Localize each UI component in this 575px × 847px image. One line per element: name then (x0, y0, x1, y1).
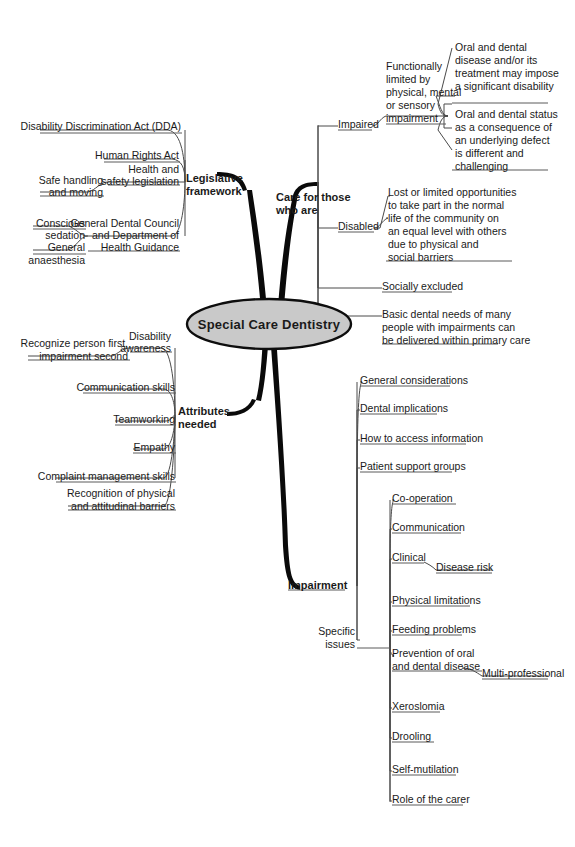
node-label: Human Rights Act (95, 149, 179, 161)
node-label: General (48, 241, 85, 253)
node-label: Communication skills (76, 381, 175, 393)
branch-impairment[interactable]: Impairment (288, 579, 348, 591)
node-safe-handling-and-moving[interactable]: Safe handling and moving (39, 174, 103, 198)
node-label: Prevention of oral (392, 647, 474, 659)
node-label: safety legislation (101, 175, 179, 187)
trunk-attributes-arm (227, 399, 256, 416)
node-socially-excluded[interactable]: Socially excluded (382, 280, 463, 292)
node-label: General considerations (360, 374, 468, 386)
node-label: Recognition of physical (67, 487, 175, 499)
node-label: Disease risk (436, 561, 494, 573)
node-label: challenging (455, 160, 508, 172)
node-lost-limited-opportunities[interactable]: Lost or limited opportunities to take pa… (388, 186, 516, 263)
node-functionally-limited[interactable]: Functionally limited by physical, mental… (386, 60, 461, 124)
node-drooling[interactable]: Drooling (392, 730, 431, 742)
node-role-of-the-carer[interactable]: Role of the carer (392, 793, 470, 805)
node-impaired[interactable]: Impaired (338, 118, 379, 130)
conn-care-impaired (318, 126, 338, 182)
node-label: Disabled (338, 220, 379, 232)
node-oral-dental-disease-disability[interactable]: Oral and dental disease and/or its treat… (455, 41, 559, 92)
node-label: Impaired (338, 118, 379, 130)
node-how-to-access-information[interactable]: How to access information (360, 432, 483, 444)
node-feeding-problems[interactable]: Feeding problems (392, 623, 476, 635)
trunk-impairment (270, 333, 300, 590)
node-complaint-management-skills[interactable]: Complaint management skills (38, 470, 175, 482)
node-label: physical, mental (386, 86, 461, 98)
node-label: Multi-professional (482, 667, 564, 679)
conn-func-b1 (444, 104, 452, 116)
node-self-mutilation[interactable]: Self-mutilation (392, 763, 459, 775)
node-label: Self-mutilation (392, 763, 459, 775)
node-label: treatment may impose (455, 67, 559, 79)
node-label: Physical limitations (392, 594, 481, 606)
node-communication-skills[interactable]: Communication skills (76, 381, 175, 393)
node-label: Specific (318, 625, 355, 637)
node-dental-implications[interactable]: Dental implications (360, 402, 448, 414)
root-label: Special Care Dentistry (198, 317, 341, 332)
node-label: a significant disability (455, 80, 554, 92)
node-label: social barriers (388, 251, 453, 263)
node-label: is different and (455, 147, 524, 159)
node-empathy[interactable]: Empathy (134, 441, 176, 453)
node-general-considerations[interactable]: General considerations (360, 374, 468, 386)
node-teamworking[interactable]: Teamworking (113, 413, 175, 425)
node-disability-discrimination-act[interactable]: Disability Discrimination Act (DDA) (21, 120, 181, 132)
branch-label-line-1: Attributes (178, 405, 230, 417)
node-xeroslomia[interactable]: Xeroslomia (392, 700, 445, 712)
node-label: anaesthesia (28, 254, 85, 266)
node-label: How to access information (360, 432, 483, 444)
conn-imp-spec (357, 586, 360, 640)
branch-attributes-needed[interactable]: Attributes needed (178, 405, 230, 430)
node-label: Dental implications (360, 402, 448, 414)
node-label: limited by (386, 73, 431, 85)
node-prevention-of-oral-disease[interactable]: Prevention of oral and dental disease (392, 647, 480, 672)
node-label: Co-operation (392, 492, 453, 504)
branch-label-line-2: who are (275, 204, 318, 216)
node-label: Lost or limited opportunities (388, 186, 516, 198)
node-recognize-person-first[interactable]: Recognize person first, impairment secon… (21, 337, 129, 362)
mind-map-canvas: Special Care Dentistry Legislative frame… (0, 0, 575, 847)
branch-label-line-2: needed (178, 418, 217, 430)
node-label: Feeding problems (392, 623, 476, 635)
node-label: Empathy (134, 441, 176, 453)
node-basic-dental-needs[interactable]: Basic dental needs of many people with i… (382, 308, 530, 346)
node-human-rights-act[interactable]: Human Rights Act (95, 149, 179, 161)
node-label: Patient support groups (360, 460, 466, 472)
node-label: and dental disease (392, 660, 480, 672)
node-label: Teamworking (113, 413, 175, 425)
node-disease-risk[interactable]: Disease risk (436, 561, 494, 573)
branch-label-line-1: Care for those (276, 191, 351, 203)
node-disabled[interactable]: Disabled (338, 220, 379, 232)
branch-label-line-2: framework (186, 185, 243, 197)
node-label: Health and (128, 163, 179, 175)
branch-care-for-those-who-are[interactable]: Care for those who are (275, 191, 351, 216)
node-label: and Department of (92, 229, 179, 241)
conn-imp-psg (357, 468, 360, 586)
node-health-and-safety-legislation[interactable]: Health and safety legislation (101, 163, 179, 187)
node-co-operation[interactable]: Co-operation (392, 492, 453, 504)
node-specific-issues[interactable]: Specific issues (318, 625, 355, 650)
node-general-anaesthesia[interactable]: General anaesthesia (28, 241, 85, 266)
node-label: Disability Discrimination Act (DDA) (21, 120, 181, 132)
node-label: disease and/or its (455, 54, 537, 66)
node-label: Drooling (392, 730, 431, 742)
node-patient-support-groups[interactable]: Patient support groups (360, 460, 466, 472)
node-oral-dental-status-defect[interactable]: Oral and dental status as a consequence … (455, 108, 558, 172)
node-label: as a consequence of (455, 121, 552, 133)
node-clinical[interactable]: Clinical (392, 551, 426, 563)
node-label: and moving (49, 186, 103, 198)
node-label: people with impairments can (382, 321, 515, 333)
node-general-dental-council[interactable]: General Dental Council and Department of… (70, 217, 179, 253)
node-label: Disability (129, 330, 172, 342)
node-recognition-of-barriers[interactable]: Recognition of physical and attitudinal … (67, 487, 175, 512)
node-label: Xeroslomia (392, 700, 445, 712)
node-label: Recognize person first, (21, 337, 128, 349)
node-label: Functionally (386, 60, 443, 72)
branch-legislative-framework[interactable]: Legislative framework (186, 172, 243, 197)
node-label: or sensory (386, 99, 436, 111)
branch-label-line-1: Impairment (288, 579, 348, 591)
node-multi-professional[interactable]: Multi-professional (482, 667, 564, 679)
node-physical-limitations[interactable]: Physical limitations (392, 594, 481, 606)
node-communication[interactable]: Communication (392, 521, 465, 533)
node-label: sedation (45, 229, 85, 241)
